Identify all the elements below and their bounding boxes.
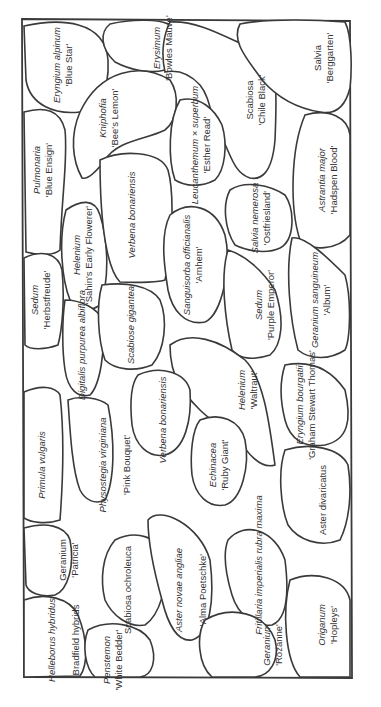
label-eryngium-bourgatii: Eryngium bourgatii	[294, 365, 305, 445]
label-scabiosa-chile-black-cv: 'Chile Black'	[256, 74, 267, 125]
label-eryngium-alpinum-cv: 'Blue Star'	[63, 43, 74, 86]
label-helenium-sahin: Helenium	[71, 235, 82, 275]
label-pulmonaria-cv: 'Blue Ensign'	[43, 143, 54, 198]
label-origanum: Origanum	[316, 604, 327, 646]
label-sedum-purple: Sedum	[253, 290, 264, 320]
label-sanguisorba-cv: 'Arnhem'	[193, 246, 204, 283]
label-physostegia: Physostegia virginiana	[97, 417, 108, 512]
label-helenium-waltraut: Helenium	[236, 370, 247, 410]
label-aster-divaricatus: Aster divaricatus	[317, 465, 328, 535]
label-salvia-berggarten: Salvia	[312, 44, 323, 71]
label-sedum-herbstfreude-cv: 'Herbstfreude'	[41, 271, 52, 330]
label-geranium-rozanne: Geranium	[261, 624, 272, 666]
label-helenium-waltraut-cv: 'Waltraut'	[248, 370, 259, 409]
label-salvia-nemorosa-cv: 'Ostfriesland'	[261, 191, 272, 246]
label-kniphofia-cv: 'Bee's Lemon'	[109, 88, 120, 147]
label-leucanthemum: Leucanthemum × superbum	[189, 86, 200, 205]
label-primula: Primula vulgaris	[36, 431, 47, 499]
label-eryngium-alpinum: Eryngium alpinum	[51, 27, 62, 103]
label-sedum-purple-cv: 'Purple Emperor'	[265, 270, 276, 340]
label-scabiosa-ochroleuca: Scabiosa ochroleuca	[122, 545, 133, 634]
label-kniphofia: Kniphofia	[97, 98, 108, 138]
label-digitalis: Digitalis purpurea albiflora	[76, 290, 87, 400]
label-geranium-patricia-cv: 'Patricia'	[69, 542, 80, 577]
label-geranium-sanguineum-cv: 'Album'	[321, 285, 332, 316]
label-fritillaria: Fritillaria imperialis rubra maxima	[253, 495, 264, 634]
label-helenium-sahin-cv: 'Sahin's Early Flowerer'	[83, 206, 94, 305]
label-sanguisorba: Sanguisorba officianalis	[181, 215, 192, 316]
label-astrantia-cv: 'Hadspen Blood'	[328, 146, 339, 215]
label-salvia-berggarten-cv: 'Berggarten'	[324, 33, 335, 84]
label-scabiosa-chile-black: Scabiosa	[244, 80, 255, 120]
label-astrantia: Astrantia major	[316, 147, 327, 213]
label-helleborus: Helleborus hybridus	[46, 598, 57, 682]
label-leucanthemum-cv: 'Esther Read'	[201, 117, 212, 174]
label-geranium-patricia: Geranium	[57, 539, 68, 581]
label-sedum-herbstfreude: Sedum	[29, 285, 40, 315]
label-scabiosa-gigantea: Scabiose gigantea	[125, 286, 136, 364]
bed-aster-divaricatus	[281, 446, 350, 543]
label-penstemon-cv: 'White Bedder'	[113, 629, 124, 690]
label-helleborus-cv: Bradfield hybrids	[70, 604, 81, 675]
label-echinacea: Echinacea	[207, 443, 218, 487]
label-erysimum-cv: 'Bowles Mauve'	[163, 15, 174, 81]
label-geranium-sanguineum: Geranium sanguineum	[309, 252, 320, 348]
label-penstemon: Penstemon	[101, 636, 112, 684]
label-aster-novae-cv: 'Alma Poetschke'	[197, 554, 208, 626]
label-verbena-2: Verbena bonariensis	[157, 376, 168, 463]
label-pulmonaria: Pulmonaria	[31, 146, 42, 194]
label-physostegia-cv: 'Pink Bouquet'	[121, 435, 132, 495]
label-eryngium-bourgatii-cv: 'Graham Stewart Thomas'	[306, 350, 317, 460]
label-erysimum: Erysimum	[151, 27, 162, 69]
label-salvia-nemorosa: Salvia nemerosa	[249, 183, 260, 254]
label-origanum-cv: 'Hopleys'	[328, 606, 339, 644]
label-aster-novae: Aster novae angliae	[173, 548, 184, 633]
label-geranium-rozanne-cv: 'Rozanne'	[273, 624, 284, 666]
planting-plan: Eryngium alpinum 'Blue Star' Erysimum 'B…	[0, 0, 381, 707]
label-echinacea-cv: 'Ruby Giant'	[219, 439, 230, 490]
label-verbena-1: Verbena bonariensis	[126, 171, 137, 258]
